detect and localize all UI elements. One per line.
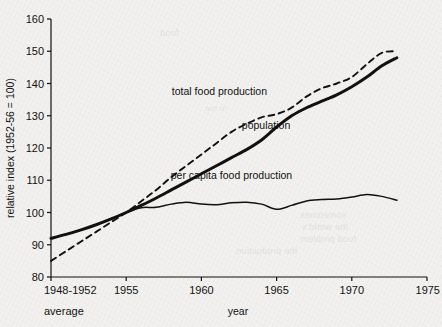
figure-page: sometimesthe world'sfood problemthe prod… bbox=[0, 0, 442, 327]
y-axis-tick-label: 160 bbox=[26, 13, 44, 25]
y-axis-tick-label: 130 bbox=[26, 110, 44, 122]
series-line-2 bbox=[51, 194, 397, 238]
series-lines bbox=[51, 51, 397, 261]
x-axis-tick-sublabel: average bbox=[44, 305, 84, 317]
y-axis-tick-label: 100 bbox=[26, 207, 44, 219]
x-axis-tick-label: 1970 bbox=[340, 284, 364, 296]
series-label-1: population bbox=[242, 119, 291, 131]
y-axis-tick-label: 120 bbox=[26, 142, 44, 154]
line-chart: 8090100110120130140150160 1948-195219551… bbox=[0, 0, 442, 327]
x-axis-tick-label: 1975 bbox=[416, 284, 440, 296]
x-axis-title: year bbox=[228, 305, 249, 317]
y-axis-tick-label: 110 bbox=[26, 174, 44, 186]
y-axis-tick-label: 140 bbox=[26, 78, 44, 90]
y-axis: 8090100110120130140150160 bbox=[26, 13, 51, 283]
x-axis-tick-label: 1955 bbox=[114, 284, 138, 296]
x-axis-tick-label: 1960 bbox=[189, 284, 213, 296]
series-label-0: total food production bbox=[172, 85, 267, 97]
y-axis-tick-label: 80 bbox=[32, 271, 44, 283]
y-axis-tick-label: 90 bbox=[32, 239, 44, 251]
series-line-0 bbox=[51, 51, 397, 261]
series-label-2: per capita food production bbox=[171, 169, 293, 181]
y-axis-title: relative index (1952-56 = 100) bbox=[4, 78, 16, 218]
x-axis-tick-label: 1965 bbox=[264, 284, 288, 296]
y-axis-tick-label: 150 bbox=[26, 45, 44, 57]
x-axis-tick-label: 1948-1952 bbox=[44, 284, 97, 296]
